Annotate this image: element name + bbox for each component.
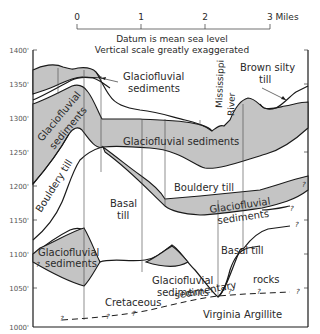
scale-tick-3: 3 Miles xyxy=(267,12,299,22)
label-bouldery-till-mid: Bouldery till xyxy=(174,182,234,193)
label-rocks: rocks xyxy=(253,274,280,285)
svg-text:?: ? xyxy=(302,181,306,189)
label-brown-silty-1: Brown silty xyxy=(240,62,295,73)
y-tick-1150: 1150' xyxy=(9,217,29,225)
scale-bar: 0 1 2 3 Miles xyxy=(74,12,299,29)
svg-text:?: ? xyxy=(106,313,110,321)
y-tick-1300: 1300' xyxy=(9,115,29,123)
label-river: River xyxy=(226,92,237,116)
label-glaciofluvial-top-2: sediments xyxy=(128,83,180,94)
y-tick-1350: 1350' xyxy=(9,81,29,89)
scale-tick-0: 0 xyxy=(74,12,80,22)
label-brown-silty-2: till xyxy=(259,74,271,85)
y-tick-1000: 1000' xyxy=(9,324,29,332)
label-basal-till-left-2: till xyxy=(117,210,129,221)
label-mississippi: Mississippi xyxy=(214,60,226,108)
y-tick-1100: 1100' xyxy=(9,251,29,259)
label-basal-till-left-1: Basal xyxy=(110,198,137,209)
svg-text:?: ? xyxy=(296,288,300,296)
scale-tick-1: 1 xyxy=(138,12,144,22)
svg-text:?: ? xyxy=(228,288,232,296)
y-tick-1050: 1050' xyxy=(9,285,29,293)
label-virginia-argillite: Virginia Argillite xyxy=(203,309,282,320)
y-tick-1250: 1250' xyxy=(9,149,29,157)
svg-text:?: ? xyxy=(257,288,261,296)
svg-text:?: ? xyxy=(295,221,299,229)
label-glaciofluvial-lower-left-2: sediments xyxy=(45,258,97,269)
label-glaciofluvial-lower-left-1: Glaciofluvial xyxy=(38,247,99,258)
svg-text:?: ? xyxy=(290,205,294,213)
glaciofluvial-lower-mid xyxy=(146,246,188,267)
label-glaciofluvial-main: Glaciofluvial sediments xyxy=(123,136,239,147)
datum-note: Datum is mean sea level xyxy=(116,34,228,44)
label-basal-till-right: Basal till xyxy=(221,245,264,256)
geologic-cross-section: 0 1 2 3 Miles Datum is mean sea level Ve… xyxy=(0,0,320,334)
svg-text:?: ? xyxy=(132,310,136,318)
svg-text:?: ? xyxy=(36,261,40,269)
vertical-scale-note: Vertical scale greatly exaggerated xyxy=(95,45,249,55)
arrow-head-icon xyxy=(281,96,286,100)
label-cretaceous: Cretaceous xyxy=(105,297,161,308)
y-tick-1200: 1200' xyxy=(9,183,29,191)
svg-text:?: ? xyxy=(60,315,64,323)
y-tick-1400: 1400' xyxy=(9,47,29,55)
label-glaciofluvial-top-1: Glaciofluvial xyxy=(123,71,184,82)
scale-tick-2: 2 xyxy=(202,12,208,22)
